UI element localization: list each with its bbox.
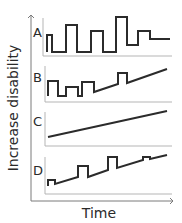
- x-axis-label: Time: [81, 205, 116, 221]
- panel-a: A: [33, 17, 172, 56]
- disability-curve: [48, 111, 167, 137]
- panel-label: B: [33, 70, 42, 85]
- y-axis-label: Increase disability: [5, 45, 21, 172]
- disability-curve: [48, 155, 167, 186]
- disability-progression-diagram: Increase disability Time ABCD: [0, 0, 182, 223]
- panel-b: B: [33, 66, 172, 102]
- panel-label: C: [33, 114, 42, 129]
- panel-c: C: [33, 111, 172, 146]
- panel-label: D: [33, 163, 43, 178]
- disability-curve: [48, 69, 167, 96]
- panel-d: D: [33, 155, 172, 194]
- disability-curve: [47, 17, 170, 52]
- panel-label: A: [33, 25, 42, 40]
